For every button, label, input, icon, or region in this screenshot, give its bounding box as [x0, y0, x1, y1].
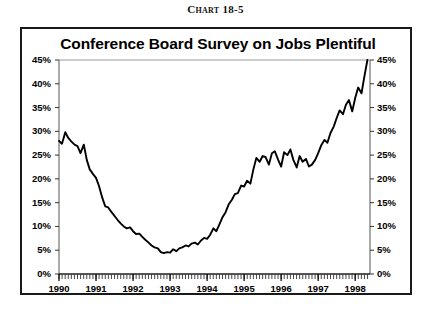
y-axis-tick-label-right: 25% [377, 149, 407, 160]
y-axis-tick-label-left: 40% [21, 78, 51, 89]
x-axis-tick-label: 1996 [261, 283, 301, 294]
x-axis-tick-label: 1993 [150, 283, 190, 294]
y-axis-tick-label-left: 10% [21, 220, 51, 231]
y-axis-tick-label-left: 35% [21, 102, 51, 113]
y-axis-tick-label-right: 0% [377, 268, 407, 279]
data-series-line [59, 60, 367, 253]
x-axis-tick-label: 1997 [298, 283, 338, 294]
chart-page: Chart 18-5 Conference Board Survey on Jo… [0, 0, 431, 312]
y-axis-tick-label-right: 35% [377, 102, 407, 113]
y-axis-tick-label-right: 5% [377, 244, 407, 255]
x-axis-tick-label: 1994 [187, 283, 227, 294]
y-axis-tick-label-left: 20% [21, 173, 51, 184]
axis-ticks [55, 60, 374, 281]
y-axis-tick-label-left: 25% [21, 149, 51, 160]
y-axis-tick-label-left: 45% [21, 54, 51, 65]
y-axis-tick-label-left: 15% [21, 197, 51, 208]
x-axis-tick-label: 1998 [335, 283, 375, 294]
x-axis-tick-label: 1990 [39, 283, 79, 294]
y-axis-tick-label-right: 45% [377, 54, 407, 65]
x-axis-tick-label: 1995 [224, 283, 264, 294]
y-axis-tick-label-right: 30% [377, 125, 407, 136]
chart-frame: Conference Board Survey on Jobs Plentifu… [20, 27, 412, 295]
y-axis-tick-label-right: 20% [377, 173, 407, 184]
axes-group [59, 60, 370, 274]
y-axis-tick-label-right: 40% [377, 78, 407, 89]
chart-number-caption: Chart 18-5 [0, 3, 431, 15]
x-axis-tick-label: 1991 [76, 283, 116, 294]
y-axis-tick-label-left: 30% [21, 125, 51, 136]
plot-area: 0%0%5%5%10%10%15%15%20%20%25%25%30%30%35… [22, 29, 414, 297]
y-axis-tick-label-right: 10% [377, 220, 407, 231]
y-axis-tick-label-left: 0% [21, 268, 51, 279]
y-axis-tick-label-left: 5% [21, 244, 51, 255]
y-axis-tick-label-right: 15% [377, 197, 407, 208]
line-chart-svg [22, 29, 414, 297]
x-axis-tick-label: 1992 [113, 283, 153, 294]
